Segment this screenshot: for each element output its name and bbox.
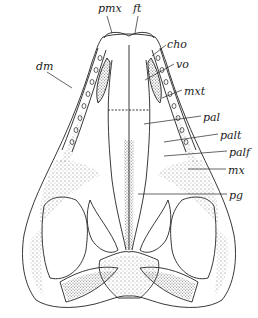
label-ft: ft [133, 3, 142, 14]
label-pmx: pmx [98, 3, 122, 14]
label-mxt: mxt [184, 86, 205, 97]
skull-illustration [0, 0, 258, 318]
label-dm: dm [36, 61, 53, 72]
label-pg: pg [229, 190, 243, 201]
label-palt: palt [220, 130, 242, 141]
label-palf: palf [229, 147, 250, 158]
skull-diagram: pmx ft cho vo dm mxt pal palt palf mx pg [0, 0, 258, 318]
label-vo: vo [176, 59, 189, 70]
label-pal: pal [203, 112, 220, 123]
label-mx: mx [228, 165, 245, 176]
label-cho: cho [167, 39, 187, 50]
